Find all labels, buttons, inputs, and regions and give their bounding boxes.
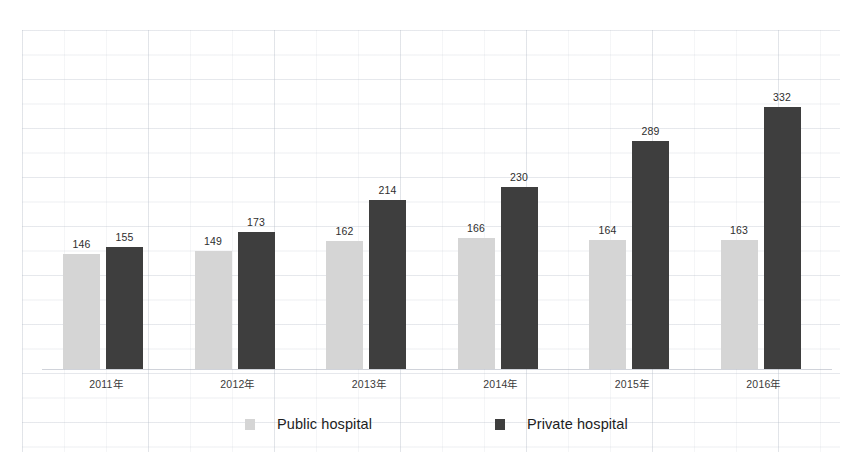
bar-private-2013年	[369, 200, 406, 369]
category-label-2015年: 2015年	[568, 376, 696, 391]
bar-private-2014年	[501, 187, 538, 369]
bar-private-2011年	[106, 247, 143, 369]
bar-private-2012年	[238, 232, 275, 369]
legend-swatch-icon-public	[245, 419, 255, 430]
value-label-public-2012年: 149	[193, 235, 233, 247]
legend-item-private-hospital[interactable]: Private hospital	[495, 411, 628, 437]
category-label-2014年: 2014年	[437, 376, 565, 391]
value-label-public-2016年: 163	[719, 224, 759, 236]
category-label-2016年: 2016年	[700, 376, 828, 391]
value-label-private-2013年: 214	[368, 184, 408, 196]
plot-area: 146155149173162214166230164289163332 201…	[0, 0, 855, 466]
legend-label-private: Private hospital	[527, 416, 628, 432]
bar-public-2012年	[195, 251, 232, 369]
value-label-private-2016年: 332	[762, 91, 802, 103]
value-label-private-2014年: 230	[499, 171, 539, 183]
legend-label-public: Public hospital	[277, 416, 372, 432]
bar-private-2016年	[764, 107, 801, 369]
value-label-public-2014年: 166	[456, 222, 496, 234]
value-label-public-2011年: 146	[62, 238, 102, 250]
category-label-2013年: 2013年	[305, 376, 433, 391]
value-label-public-2013年: 162	[325, 225, 365, 237]
value-label-private-2012年: 173	[236, 216, 276, 228]
bar-public-2015年	[589, 240, 626, 369]
bar-chart-figure: 146155149173162214166230164289163332 201…	[0, 0, 855, 466]
bar-public-2011年	[63, 254, 100, 369]
legend-swatch-icon-private	[495, 419, 505, 430]
category-label-2012年: 2012年	[174, 376, 302, 391]
bar-public-2016年	[721, 240, 758, 369]
legend-item-public-hospital[interactable]: Public hospital	[245, 411, 372, 437]
value-label-private-2015年: 289	[631, 125, 671, 137]
axis-baseline	[42, 369, 832, 370]
chart-legend: Public hospital Private hospital	[0, 411, 855, 439]
bar-private-2015年	[632, 141, 669, 369]
bar-public-2013年	[326, 241, 363, 369]
bar-public-2014年	[458, 238, 495, 369]
category-label-2011年: 2011年	[42, 376, 170, 391]
value-label-private-2011年: 155	[105, 231, 145, 243]
value-label-public-2015年: 164	[588, 224, 628, 236]
